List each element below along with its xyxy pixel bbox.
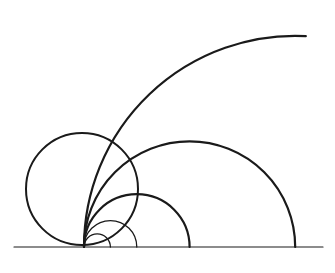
semicircle-large	[84, 141, 295, 247]
tangent-circles-diagram	[0, 0, 335, 273]
tangent-arc-family	[84, 36, 306, 247]
circle-left	[26, 133, 138, 245]
